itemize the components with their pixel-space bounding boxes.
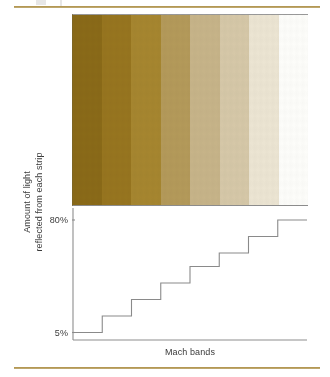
swatch-band-2: [102, 15, 132, 205]
scan-artifact: [36, 0, 46, 5]
y-axis-title: Amount of light reflected from each stri…: [21, 117, 45, 287]
mach-bands-figure: 80% 5% Amount of light reflected from ea…: [0, 0, 330, 377]
y-axis-title-line-2: reflected from each strip: [33, 117, 45, 287]
swatch-band-1: [72, 15, 102, 205]
y-axis-title-line-1: Amount of light: [21, 117, 33, 287]
swatch-band-4: [161, 15, 191, 205]
bottom-divider-rule: [14, 367, 320, 369]
swatch-band-5: [190, 15, 220, 205]
swatch-panel-left-edge: [72, 14, 73, 206]
reflectance-step-line: [73, 220, 307, 333]
mach-band-swatch-panel: [72, 14, 308, 206]
y-tick-label-5: 5%: [34, 328, 68, 338]
step-chart-svg: [72, 208, 308, 342]
swatch-band-6: [220, 15, 250, 205]
swatch-band-7: [249, 15, 279, 205]
swatch-band-3: [131, 15, 161, 205]
top-divider-rule: [14, 6, 320, 8]
swatch-band-8: [279, 15, 309, 205]
reflectance-step-chart: [72, 208, 308, 342]
figure-caption: Mach bands: [72, 347, 308, 357]
